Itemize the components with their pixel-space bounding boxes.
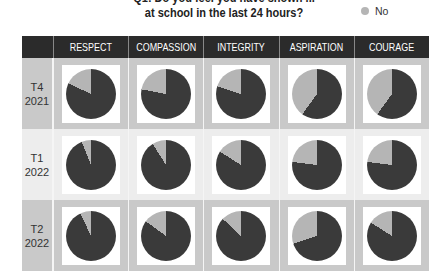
pie-grid-table: RESPECT COMPASSION INTEGRITY ASPIRATION …: [22, 36, 429, 271]
pie-cell: [203, 58, 278, 129]
pie-cell: [354, 58, 429, 129]
pie-cell: [128, 200, 203, 271]
header-aspiration: ASPIRATION: [279, 36, 354, 58]
pie-cell: [279, 129, 354, 200]
pie-chart: [292, 69, 342, 119]
pie-chart: [141, 211, 191, 261]
pie-chart: [292, 140, 342, 190]
pie-cell: [128, 58, 203, 129]
pie-chart: [141, 140, 191, 190]
row-label: T42021: [22, 58, 53, 129]
header-integrity: INTEGRITY: [203, 36, 278, 58]
pie-cell: [203, 200, 278, 271]
pie-chart: [367, 69, 417, 119]
header-respect: RESPECT: [53, 36, 128, 58]
pie-chart: [66, 140, 116, 190]
pie-chart: [66, 211, 116, 261]
pie-cell: [203, 129, 278, 200]
legend-no-swatch-icon: [361, 7, 369, 15]
row-label: T22022: [22, 200, 53, 271]
legend: No: [361, 5, 388, 17]
pie-chart: [216, 140, 266, 190]
header-courage: COURAGE: [354, 36, 429, 58]
pie-cell: [128, 129, 203, 200]
pie-chart: [66, 69, 116, 119]
pie-cell: [354, 129, 429, 200]
pie-cell: [53, 58, 128, 129]
header-compassion: COMPASSION: [128, 36, 203, 58]
table-row: T12022: [22, 129, 429, 200]
header-corner: [22, 36, 53, 58]
pie-chart: [367, 140, 417, 190]
pie-chart: [292, 211, 342, 261]
pie-chart: [216, 69, 266, 119]
row-label: T12022: [22, 129, 53, 200]
pie-cell: [279, 58, 354, 129]
pie-cell: [354, 200, 429, 271]
pie-chart: [141, 69, 191, 119]
table-header: RESPECT COMPASSION INTEGRITY ASPIRATION …: [22, 36, 429, 58]
pie-cell: [279, 200, 354, 271]
pie-chart: [216, 211, 266, 261]
table-row: T22022: [22, 200, 429, 271]
pie-cell: [53, 200, 128, 271]
table-row: T42021: [22, 58, 429, 129]
pie-chart: [367, 211, 417, 261]
legend-no-label: No: [375, 5, 388, 17]
pie-cell: [53, 129, 128, 200]
